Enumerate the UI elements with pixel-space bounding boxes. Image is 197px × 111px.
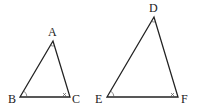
vertex-label-d: D [149, 1, 158, 15]
angle-a-arc-mark [51, 45, 55, 46]
triangle-abc: A B C [8, 25, 80, 106]
angle-c-cross-mark [63, 93, 66, 96]
vertex-label-a: A [48, 25, 57, 39]
angle-f-cross-mark [171, 93, 174, 96]
vertex-label-e: E [95, 92, 102, 106]
angle-b-arc-mark [24, 91, 27, 97]
angle-e-arc-mark [111, 91, 114, 97]
triangle-abc-edges [20, 41, 70, 97]
triangle-def-edges [107, 17, 178, 97]
similar-triangles-figure: A B C D E F [0, 0, 197, 111]
triangle-def: D E F [95, 1, 188, 106]
vertex-label-f: F [181, 92, 188, 106]
vertex-label-b: B [8, 92, 16, 106]
vertex-label-c: C [72, 92, 80, 106]
angle-d-arc-mark [152, 21, 156, 22]
